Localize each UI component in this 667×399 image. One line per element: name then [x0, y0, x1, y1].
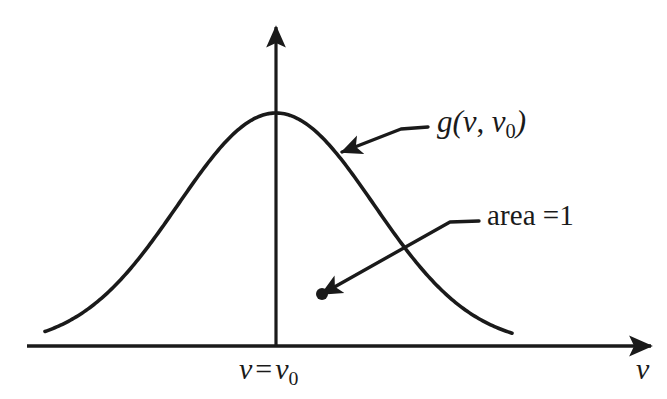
- gaussian-lineshape-figure: g(ν, ν0) area=1 ν=ν0 ν: [0, 0, 667, 399]
- center-label-rhs-subscript: 0: [289, 367, 299, 389]
- curve-label-close-paren: ): [516, 104, 526, 139]
- curve-label-comma: ,: [477, 104, 486, 139]
- center-frequency-tick-label: ν=ν0: [239, 354, 298, 388]
- curve-label-open-paren: (: [453, 104, 463, 139]
- area-annotation-label: area=1: [487, 201, 574, 230]
- area-label-value: 1: [559, 199, 574, 231]
- center-label-equals: =: [252, 354, 275, 384]
- curve-label-function-name: g: [437, 104, 453, 139]
- x-axis-label: ν: [636, 354, 649, 384]
- curve-function-label: g(ν, ν0): [437, 106, 526, 141]
- curve-label-arg1: ν: [463, 104, 477, 139]
- center-label-lhs: ν: [239, 352, 252, 385]
- curve-label-arg2: ν: [492, 104, 506, 139]
- center-label-rhs: ν: [275, 352, 288, 385]
- area-label-equals: =: [543, 199, 560, 231]
- area-label-word: area: [487, 199, 536, 231]
- area-marker-dot: [316, 288, 328, 300]
- gaussian-curve: [45, 113, 512, 333]
- x-axis-label-text: ν: [636, 352, 649, 385]
- curve-label-arg2-subscript: 0: [506, 120, 516, 142]
- area-leader-line: [322, 221, 479, 294]
- curve-leader-line: [342, 127, 428, 152]
